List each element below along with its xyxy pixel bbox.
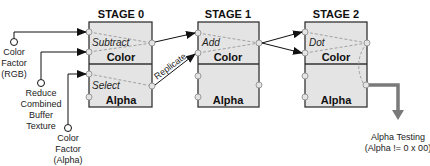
port-icon (256, 82, 262, 88)
stage-0-alpha-label: Alpha (106, 94, 137, 106)
input-color-factor-alpha: Color Factor (Alpha) (53, 74, 86, 165)
port-icon (149, 40, 155, 46)
input-label: Color (57, 133, 79, 143)
output-alpha-testing: Alpha Testing (Alpha != 0 x 00) (365, 85, 430, 153)
output-arrow (369, 85, 398, 111)
arrow-to-dot-a (262, 32, 302, 43)
stage-2-title: STAGE 2 (313, 8, 359, 20)
edge-stage0-to-stage1: Replicate (152, 33, 195, 85)
input-label: Texture (26, 121, 56, 131)
port-icon (364, 40, 370, 46)
port-icon (363, 82, 369, 88)
input-label: (RGB) (1, 69, 27, 79)
port-icon (302, 73, 308, 79)
stage-1: STAGE 1 Add Color Alpha (195, 8, 262, 107)
port-icon (86, 29, 92, 35)
stage-2: STAGE 2 Dot Color Alpha (302, 8, 370, 107)
stage-1-alpha-label: Alpha (213, 94, 244, 106)
port-icon (256, 40, 262, 46)
port-icon (149, 83, 155, 89)
stage-2-color-label: Color (322, 51, 351, 63)
port-icon (86, 49, 92, 55)
port-icon (195, 30, 201, 36)
port-icon (195, 73, 201, 79)
stage-0-color-label: Color (107, 51, 136, 63)
input-label: Color (3, 47, 25, 57)
input-node-icon (65, 125, 72, 132)
stage-1-color-label: Color (214, 51, 243, 63)
input-label: Factor (1, 58, 27, 68)
arrow-to-dot-b (262, 43, 302, 53)
edge-stage1-to-stage2 (262, 32, 302, 53)
input-label: (Alpha) (53, 155, 82, 165)
port-icon (195, 94, 201, 100)
output-label-line1: Alpha Testing (371, 132, 425, 142)
port-icon (86, 94, 92, 100)
port-icon (86, 71, 92, 77)
port-icon (302, 94, 308, 100)
stage-0: STAGE 0 Subtract Color Select Alpha (86, 8, 155, 107)
output-label-line2: (Alpha != 0 x 00) (365, 143, 430, 153)
stage-1-title: STAGE 1 (205, 8, 251, 20)
input-color-factor-rgb: Color Factor (RGB) (1, 32, 86, 79)
stage-1-color-op: Add (201, 37, 220, 48)
replicate-label: Replicate (152, 51, 188, 82)
port-icon (302, 29, 308, 35)
input-label: Reduce (25, 88, 56, 98)
stage-0-alpha-op: Select (92, 80, 121, 91)
stage-2-alpha-label: Alpha (321, 94, 352, 106)
input-reduce-combined-buffer-texture: Reduce Combined Buffer Texture (20, 52, 86, 131)
stage-2-color-op: Dot (309, 37, 326, 48)
port-icon (302, 50, 308, 56)
input-label: Combined (20, 99, 61, 109)
input-label: Factor (55, 144, 81, 154)
input-node-icon (11, 39, 18, 46)
stage-0-color-op: Subtract (92, 37, 130, 48)
input-node-icon (38, 80, 45, 87)
pipeline-diagram: STAGE 0 Subtract Color Select Alpha STAG… (0, 0, 430, 166)
arrow-down-icon (392, 110, 404, 120)
stage-0-title: STAGE 0 (98, 8, 144, 20)
port-icon (195, 50, 201, 56)
arrow-color-to-add-a (155, 33, 195, 42)
input-label: Buffer (29, 110, 53, 120)
